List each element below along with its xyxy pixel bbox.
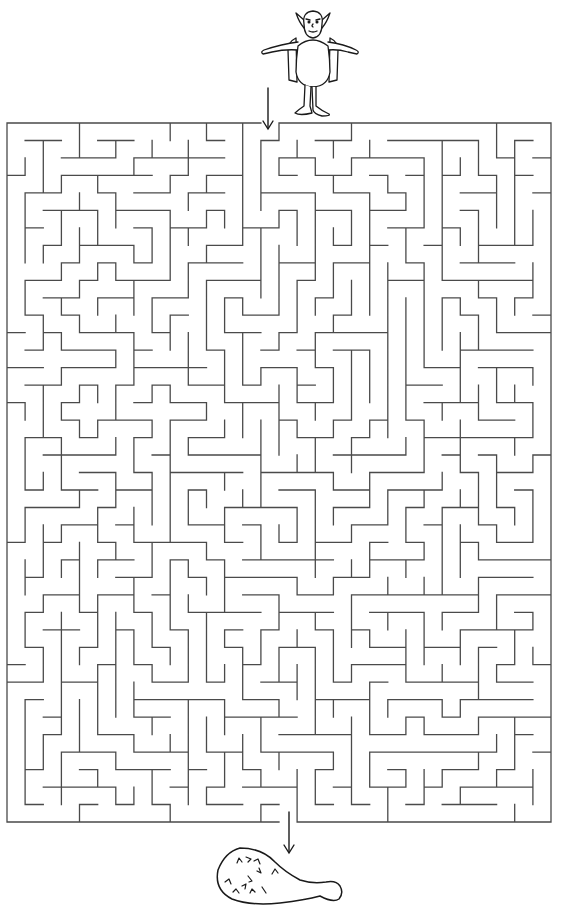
troll-right-eye xyxy=(316,21,318,23)
maze-entrance[interactable] xyxy=(261,119,279,127)
drumstick-goal[interactable] xyxy=(217,848,342,904)
troll-right-ear xyxy=(322,13,330,28)
drumstick-outline xyxy=(217,848,342,904)
troll-right-leg xyxy=(312,87,329,116)
maze-walls xyxy=(7,123,551,822)
troll-left-leg xyxy=(295,85,312,115)
troll-character xyxy=(262,11,359,116)
troll-left-eye xyxy=(308,21,310,23)
maze-puzzle-page xyxy=(0,0,562,908)
maze-grid xyxy=(7,119,551,826)
troll-body xyxy=(296,40,330,87)
troll-left-ear xyxy=(296,13,304,28)
maze-exit[interactable] xyxy=(279,818,297,826)
